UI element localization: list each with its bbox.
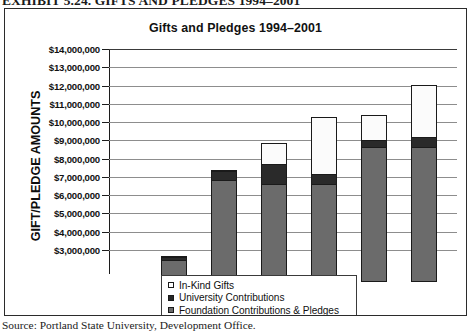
- bar-segment-university: [312, 174, 336, 185]
- y-axis-tick-label: $5,000,000: [54, 208, 100, 219]
- y-axis-tick: [102, 195, 109, 196]
- bar-segment-foundation: [212, 181, 236, 281]
- y-axis-tick: [102, 177, 109, 178]
- y-axis-tick-label: $4,000,000: [54, 226, 100, 237]
- bar-segment-university: [362, 140, 386, 147]
- bar-segment-in-kind: [312, 118, 336, 175]
- bar-segment-foundation: [412, 148, 436, 281]
- gridline: [109, 122, 457, 123]
- chart-title: Gifts and Pledges 1994–2001: [5, 21, 466, 35]
- y-axis-tick: [102, 86, 109, 87]
- plot-area: $14,000,000$13,000,000$12,000,000$11,000…: [109, 49, 457, 270]
- y-axis-tick: [102, 49, 109, 50]
- gridline: [109, 140, 457, 141]
- y-axis-tick-label: $8,000,000: [54, 153, 100, 164]
- y-axis-line: [109, 49, 110, 274]
- bar-segment-university: [212, 171, 236, 182]
- y-axis-tick-label: $10,000,000: [49, 117, 100, 128]
- gridline: [109, 104, 457, 105]
- chart-figure-frame: Gifts and Pledges 1994–2001 GIFT/PLEDGE …: [4, 8, 467, 316]
- y-axis-tick: [102, 67, 109, 68]
- y-axis-tick-label: $14,000,000: [49, 44, 100, 55]
- source-note: Source: Portland State University, Devel…: [2, 319, 256, 331]
- bar-1995[interactable]: [211, 170, 237, 283]
- gridline: [109, 86, 457, 87]
- legend-swatch-icon-university: [168, 295, 174, 301]
- bar-segment-university: [412, 137, 436, 148]
- y-axis-tick: [102, 232, 109, 233]
- bar-segment-foundation: [262, 185, 286, 281]
- y-axis-tick-label: $6,000,000: [54, 190, 100, 201]
- y-axis-tick-label: $13,000,000: [49, 62, 100, 73]
- y-axis-tick-label: $7,000,000: [54, 171, 100, 182]
- y-axis-tick-label: $11,000,000: [49, 98, 100, 109]
- legend-swatch-icon-foundation: [168, 307, 174, 313]
- bar-segment-in-kind: [262, 144, 286, 164]
- bar-segment-foundation: [312, 185, 336, 281]
- chart-legend: In-Kind Gifts University Contributions F…: [161, 275, 357, 316]
- bar-1998[interactable]: [361, 115, 387, 282]
- bar-1999[interactable]: [411, 85, 437, 282]
- y-axis-tick: [102, 122, 109, 123]
- bar-segment-foundation: [362, 148, 386, 281]
- legend-item-in-kind-gifts: In-Kind Gifts: [168, 279, 351, 292]
- bar-1996[interactable]: [261, 143, 287, 282]
- bar-segment-university: [262, 164, 286, 185]
- y-axis-tick-label: $12,000,000: [49, 80, 100, 91]
- bar-segment-in-kind: [362, 116, 386, 141]
- legend-label-university: University Contributions: [179, 292, 284, 303]
- gridline: [109, 49, 457, 50]
- legend-label-in-kind: In-Kind Gifts: [179, 280, 234, 291]
- y-axis-tick: [102, 104, 109, 105]
- y-axis-tick: [102, 213, 109, 214]
- y-axis-tick: [102, 250, 109, 251]
- y-axis-tick-label: $9,000,000: [54, 135, 100, 146]
- legend-item-university-contributions: University Contributions: [168, 292, 351, 305]
- bar-segment-in-kind: [412, 86, 436, 136]
- y-axis-tick: [102, 140, 109, 141]
- legend-label-foundation: Foundation Contributions & Pledges: [179, 305, 339, 316]
- legend-item-foundation-contributions: Foundation Contributions & Pledges: [168, 304, 351, 316]
- y-axis-tick: [102, 159, 109, 160]
- y-axis-title: GIFT/PLEDGE AMOUNTS: [29, 81, 43, 251]
- bar-1997[interactable]: [311, 117, 337, 282]
- y-axis-tick-label: $3,000,000: [54, 245, 100, 256]
- legend-swatch-icon-in-kind: [168, 282, 174, 288]
- gridline: [109, 67, 457, 68]
